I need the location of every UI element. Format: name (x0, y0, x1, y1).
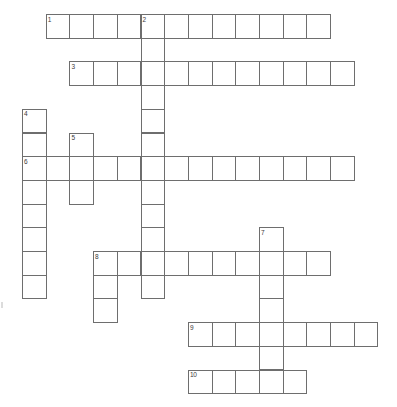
crossword-cell[interactable] (259, 346, 284, 371)
crossword-cell[interactable] (93, 251, 118, 276)
crossword-cell[interactable] (306, 322, 331, 347)
crossword-cell[interactable] (141, 85, 166, 110)
crossword-cell[interactable] (306, 251, 331, 276)
crossword-cell[interactable] (212, 251, 237, 276)
crossword-cell[interactable] (22, 251, 47, 276)
crossword-cell[interactable] (235, 156, 260, 181)
crossword-cell[interactable] (235, 370, 260, 395)
crossword-cell[interactable] (235, 251, 260, 276)
crossword-cell[interactable] (259, 275, 284, 300)
crossword-cell[interactable] (259, 322, 284, 347)
crossword-cell[interactable] (306, 14, 331, 39)
crossword-cell[interactable] (117, 61, 142, 86)
crossword-cell[interactable] (93, 14, 118, 39)
crossword-cell[interactable] (141, 204, 166, 229)
crossword-cell[interactable] (22, 227, 47, 252)
crossword-cell[interactable] (141, 109, 166, 134)
crossword-cell[interactable] (330, 156, 355, 181)
crossword-cell[interactable] (259, 14, 284, 39)
crossword-cell[interactable] (69, 14, 94, 39)
crossword-cell[interactable] (93, 156, 118, 181)
crossword-cell[interactable] (117, 251, 142, 276)
crossword-cell[interactable] (259, 227, 284, 252)
crossword-cell[interactable] (164, 61, 189, 86)
crossword-grid[interactable]: 12345678910 (0, 0, 397, 407)
crossword-cell[interactable] (212, 14, 237, 39)
crossword-cell[interactable] (188, 61, 213, 86)
crossword-cell[interactable] (69, 61, 94, 86)
crossword-cell[interactable] (22, 180, 47, 205)
crossword-cell[interactable] (141, 14, 166, 39)
crossword-cell[interactable] (188, 156, 213, 181)
crossword-cell[interactable] (22, 133, 47, 158)
crossword-cell[interactable] (330, 322, 355, 347)
crossword-cell[interactable] (164, 251, 189, 276)
crossword-cell[interactable] (141, 275, 166, 300)
crossword-cell[interactable] (283, 61, 308, 86)
crossword-cell[interactable] (141, 251, 166, 276)
crossword-cell[interactable] (164, 14, 189, 39)
crossword-cell[interactable] (46, 156, 71, 181)
crossword-cell[interactable] (354, 322, 379, 347)
crossword-cell[interactable] (306, 61, 331, 86)
crossword-cell[interactable] (212, 322, 237, 347)
crossword-cell[interactable] (188, 322, 213, 347)
crossword-cell[interactable] (141, 61, 166, 86)
crossword-cell[interactable] (117, 156, 142, 181)
crossword-cell[interactable] (141, 227, 166, 252)
crossword-cell[interactable] (141, 156, 166, 181)
crossword-cell[interactable] (259, 156, 284, 181)
page-edge-artifact (1, 302, 3, 308)
crossword-cell[interactable] (259, 251, 284, 276)
crossword-cell[interactable] (330, 61, 355, 86)
crossword-cell[interactable] (259, 298, 284, 323)
crossword-cell[interactable] (93, 61, 118, 86)
crossword-cell[interactable] (212, 156, 237, 181)
crossword-cell[interactable] (69, 180, 94, 205)
crossword-cell[interactable] (306, 156, 331, 181)
crossword-cell[interactable] (164, 156, 189, 181)
crossword-cell[interactable] (212, 370, 237, 395)
crossword-cell[interactable] (141, 133, 166, 158)
crossword-cell[interactable] (283, 370, 308, 395)
crossword-cell[interactable] (22, 204, 47, 229)
crossword-cell[interactable] (141, 38, 166, 63)
crossword-cell[interactable] (283, 156, 308, 181)
crossword-cell[interactable] (283, 251, 308, 276)
crossword-cell[interactable] (141, 180, 166, 205)
crossword-cell[interactable] (212, 61, 237, 86)
crossword-cell[interactable] (235, 14, 260, 39)
crossword-cell[interactable] (259, 61, 284, 86)
crossword-cell[interactable] (188, 251, 213, 276)
crossword-cell[interactable] (117, 14, 142, 39)
crossword-cell[interactable] (93, 275, 118, 300)
crossword-cell[interactable] (259, 370, 284, 395)
crossword-cell[interactable] (22, 275, 47, 300)
crossword-cell[interactable] (283, 14, 308, 39)
crossword-cell[interactable] (235, 61, 260, 86)
crossword-cell[interactable] (93, 298, 118, 323)
crossword-cell[interactable] (22, 109, 47, 134)
crossword-cell[interactable] (283, 322, 308, 347)
crossword-cell[interactable] (235, 322, 260, 347)
crossword-cell[interactable] (188, 370, 213, 395)
crossword-puzzle: 12345678910 (0, 0, 397, 407)
crossword-cell[interactable] (69, 133, 94, 158)
crossword-cell[interactable] (22, 156, 47, 181)
crossword-cell[interactable] (69, 156, 94, 181)
crossword-cell[interactable] (188, 14, 213, 39)
crossword-cell[interactable] (46, 14, 71, 39)
